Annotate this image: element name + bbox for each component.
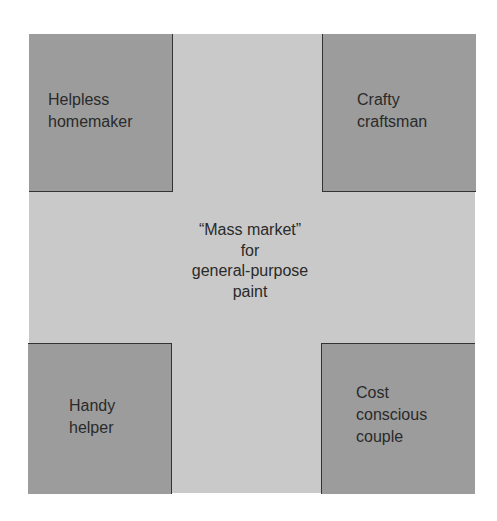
center-line: “Mass market” [160,220,340,241]
label-line: homemaker [48,111,132,133]
center-line: paint [160,282,340,303]
label-line: helper [69,417,115,439]
mass-market-label: “Mass market” for general-purpose paint [160,220,340,302]
center-line: for [160,241,340,262]
label-line: craftsman [357,111,427,133]
segment-label: Helpless homemaker [48,89,132,133]
segment-handy-helper: Handy helper [28,343,172,494]
label-line: Handy [69,395,115,417]
label-line: conscious [356,404,427,426]
segment-cost-conscious-couple: Cost conscious couple [321,343,475,494]
segment-crafty-craftsman: Crafty craftsman [322,34,476,192]
label-line: couple [356,426,427,448]
segment-label: Handy helper [69,395,115,439]
label-line: Cost [356,382,427,404]
segment-label: Crafty craftsman [357,89,427,133]
segment-helpless-homemaker: Helpless homemaker [29,34,173,192]
label-line: Helpless [48,89,132,111]
segment-label: Cost conscious couple [356,382,427,448]
label-line: Crafty [357,89,427,111]
center-line: general-purpose [160,261,340,282]
